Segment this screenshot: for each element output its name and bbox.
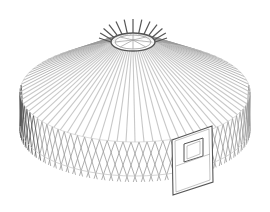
yurt-illustration bbox=[0, 0, 270, 212]
yurt-drawing bbox=[0, 0, 270, 212]
